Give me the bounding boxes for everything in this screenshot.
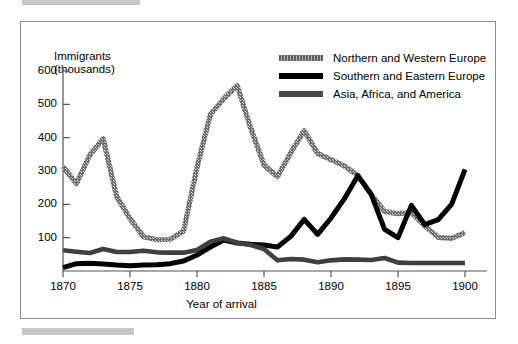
x-tick-label: 1870 [43, 280, 83, 292]
y-tick-label: 100 [25, 231, 57, 243]
scan-artifact-bottom [22, 328, 134, 335]
y-tick-label: 400 [25, 131, 57, 143]
x-tick-label: 1880 [177, 280, 217, 292]
axis-lines [63, 67, 487, 271]
plot-area [21, 22, 495, 318]
x-axis-title: Year of arrival [0, 298, 518, 311]
x-tick-label: 1890 [311, 280, 351, 292]
y-tick-label: 500 [25, 97, 57, 109]
chart-panel: Immigrants(thousands) Northern and Weste… [20, 21, 496, 319]
x-tick-label: 1895 [378, 280, 418, 292]
y-tick-label: 300 [25, 164, 57, 176]
y-tick-label: 200 [25, 197, 57, 209]
y-tick-label: 600 [25, 64, 57, 76]
immigration-line-chart-figure: Immigrants(thousands) Northern and Weste… [0, 0, 518, 344]
series-line-asia-africa-and-america [63, 238, 465, 263]
scan-artifact-top [22, 0, 140, 5]
x-tick-label: 1885 [244, 280, 284, 292]
x-tick-label: 1875 [110, 280, 150, 292]
x-axis-title-text: Year of arrival [186, 298, 257, 310]
x-tick-label: 1900 [445, 280, 485, 292]
series-paths [63, 86, 465, 268]
